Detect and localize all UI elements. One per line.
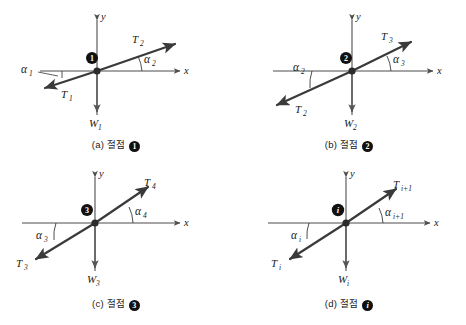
panel-b-caption-prefix: (b) [325, 139, 337, 150]
label-T1-sub: 1 [69, 94, 73, 103]
label-alpha2-sub: 2 [301, 67, 305, 76]
label-T3: T [381, 30, 388, 42]
label-alpha3: α [36, 229, 43, 241]
label-alpha3-sub: 3 [43, 235, 48, 244]
panel-c-diagram: y x 3 T 4 T 3 W 3 α 4 α 3 [0, 163, 233, 303]
panel-c: y x 3 T 4 T 3 W 3 α 4 α 3 (c) 절점 3 [0, 163, 233, 325]
panel-d-caption-prefix: (d) [325, 298, 337, 309]
panel-d-caption-node: i [362, 300, 373, 311]
x-axis-label: x [436, 65, 442, 76]
label-alpha-i1-sub: i+1 [393, 212, 404, 221]
panel-a: y x 1 T 2 T 1 W 1 α 2 [0, 0, 233, 163]
panel-a-caption-node: 1 [129, 141, 140, 152]
label-Ti-sub: i [279, 263, 281, 272]
label-T3-sub: 3 [23, 263, 28, 272]
angle-arc-alpha3 [387, 56, 391, 71]
label-T2: T [132, 33, 139, 45]
label-W3-sub: 3 [95, 279, 100, 288]
node-origin-dot [348, 67, 355, 74]
x-axis-label: x [183, 217, 189, 228]
y-axis-label: y [355, 11, 361, 22]
panel-c-caption-node: 3 [129, 300, 140, 311]
y-axis-label: y [349, 168, 355, 179]
figure-grid: y x 1 T 2 T 1 W 1 α 2 [0, 0, 466, 325]
vector-T2 [97, 44, 175, 71]
y-axis-label: y [98, 168, 104, 179]
label-alpha1-sub: 1 [29, 69, 33, 78]
label-alpha3-sub: 3 [400, 59, 405, 68]
angle-arc-alpha2 [310, 71, 312, 88]
panel-d: y x i T i+1 T i W i α i+1 α i (d) 절점 i [233, 163, 466, 325]
label-T2: T [295, 103, 302, 115]
panel-a-diagram: y x 1 T 2 T 1 W 1 α 2 [0, 0, 233, 140]
x-axis-label: x [183, 65, 189, 76]
label-alpha3: α [393, 53, 400, 65]
angle-leader-alpha1 [38, 72, 58, 76]
panel-c-caption-prefix: (c) [92, 298, 104, 309]
label-alpha1: α [21, 63, 28, 75]
panel-b-caption-word: 절점 [340, 139, 358, 150]
label-alpha-i1: α [385, 206, 392, 218]
panel-d-caption-word: 절점 [340, 298, 358, 309]
node-origin-dot [93, 67, 100, 74]
label-alpha-i: α [291, 229, 298, 241]
label-T4: T [144, 176, 151, 188]
label-alpha2: α [293, 61, 300, 73]
angle-arc-alpha4 [129, 207, 133, 223]
label-T2-sub: 2 [140, 39, 144, 48]
panel-b-caption: (b) 절점 2 [233, 137, 466, 152]
label-Ti1-sub: i+1 [401, 184, 412, 193]
panel-d-caption: (d) 절점 i [233, 296, 466, 311]
label-alpha2-sub: 2 [152, 59, 156, 68]
label-T1: T [61, 88, 68, 100]
vector-T1 [45, 71, 97, 88]
angle-arc-alpha2 [138, 56, 142, 71]
node-origin-dot [91, 219, 98, 226]
panel-c-caption: (c) 절점 3 [0, 296, 233, 311]
label-T3: T [16, 257, 23, 269]
vector-T2 [277, 71, 352, 105]
label-alpha2: α [144, 53, 151, 65]
x-axis-label: x [433, 217, 439, 228]
panel-b-caption-node: 2 [362, 141, 373, 152]
label-alpha4-sub: 4 [143, 211, 147, 220]
panel-d-diagram: y x i T i+1 T i W i α i+1 α i [233, 163, 466, 303]
label-T4-sub: 4 [152, 182, 156, 191]
label-T2-sub: 2 [303, 109, 307, 118]
label-Ti: T [271, 257, 278, 269]
label-alpha-i-sub: i [299, 235, 301, 244]
node-origin-dot [342, 219, 349, 226]
angle-arc-alpha-i1 [379, 208, 383, 223]
angle-arc-alpha-i [307, 223, 309, 239]
panel-b: y x 2 T 3 T 2 W 2 α 3 α 2 (b) 절점 2 [233, 0, 466, 163]
panel-a-caption: (a) 절점 1 [0, 137, 233, 152]
label-Wi-sub: i [347, 279, 349, 288]
node-badge-label: 2 [344, 54, 348, 63]
panel-c-caption-word: 절점 [107, 298, 125, 309]
node-badge-label: 3 [85, 206, 89, 215]
panel-b-diagram: y x 2 T 3 T 2 W 2 α 3 α 2 [233, 0, 466, 140]
label-alpha4: α [135, 205, 142, 217]
y-axis-label: y [100, 11, 106, 22]
label-W1-sub: 1 [98, 123, 102, 132]
label-T3-sub: 3 [388, 36, 393, 45]
label-Ti1: T [393, 178, 400, 190]
node-badge-label: 1 [90, 54, 94, 63]
angle-arc-alpha3 [54, 223, 56, 240]
panel-a-caption-word: 절점 [107, 139, 125, 150]
label-W2-sub: 2 [353, 123, 357, 132]
panel-a-caption-prefix: (a) [92, 139, 104, 150]
